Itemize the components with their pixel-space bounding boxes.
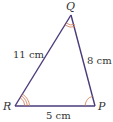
triangle-diagram: Q R P 11 cm 8 cm 5 cm [0, 0, 113, 122]
side-QR [15, 15, 71, 106]
vertex-label-P: P [97, 100, 106, 113]
vertex-label-Q: Q [66, 0, 75, 13]
side-label-RP: 5 cm [46, 110, 71, 121]
side-label-QP: 8 cm [87, 55, 112, 66]
side-label-QR: 11 cm [13, 49, 45, 60]
angle-mark-R [20, 94, 29, 106]
vertex-label-R: R [2, 100, 11, 113]
angle-mark-P [85, 97, 93, 107]
